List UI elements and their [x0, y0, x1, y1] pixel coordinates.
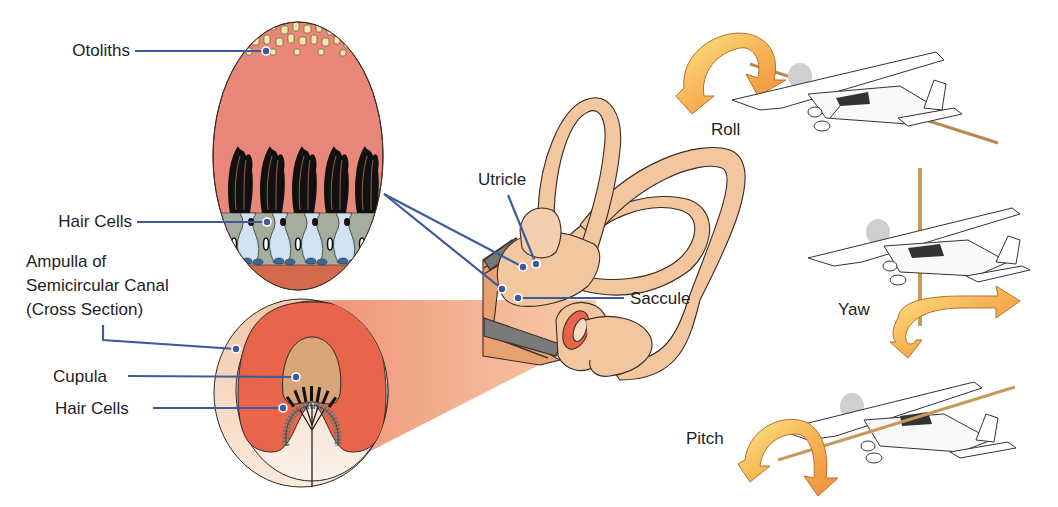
label-yaw: Yaw — [838, 299, 870, 320]
vestibular-diagram: Otoliths Hair Cells Ampulla of Semicircu… — [0, 0, 1058, 507]
label-ampulla-line2: Semicircular Canal — [26, 275, 169, 296]
pitch-illustration — [738, 382, 1016, 496]
label-saccule: Saccule — [630, 288, 690, 309]
otolith-organ-illustration — [210, 22, 390, 293]
label-hair-cells-crista: Hair Cells — [55, 398, 129, 419]
yaw-illustration — [808, 168, 1030, 358]
label-otoliths: Otoliths — [40, 40, 130, 61]
label-ampulla-line1: Ampulla of — [26, 251, 106, 272]
label-hair-cells-macula: Hair Cells — [20, 211, 132, 232]
label-utricle: Utricle — [478, 169, 526, 190]
inner-ear-labyrinth — [483, 98, 745, 380]
label-roll: Roll — [711, 119, 740, 140]
ampulla-cross-section-illustration — [214, 299, 388, 487]
label-cupula: Cupula — [53, 366, 107, 387]
label-pitch: Pitch — [686, 428, 724, 449]
label-ampulla-line3: (Cross Section) — [26, 299, 143, 320]
